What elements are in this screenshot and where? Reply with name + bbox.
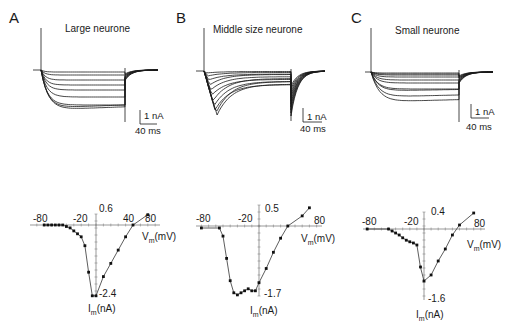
- data-point: [222, 235, 225, 238]
- panel-b-letter: B: [176, 10, 186, 25]
- data-point: [65, 225, 68, 228]
- data-point: [50, 224, 53, 227]
- data-point: [472, 212, 475, 215]
- panel-b-scale-current: 1 nA: [307, 112, 327, 122]
- data-point: [124, 235, 127, 238]
- data-point: [87, 271, 90, 274]
- data-point: [76, 232, 79, 235]
- data-point: [401, 236, 404, 239]
- data-point: [451, 234, 454, 237]
- data-point: [229, 279, 232, 282]
- panel-a-letter: A: [9, 10, 19, 25]
- iv-a-ylabel: Im(nA): [88, 304, 116, 316]
- data-point: [419, 266, 422, 269]
- data-point: [47, 224, 50, 227]
- data-point: [72, 230, 75, 233]
- panel-c-scale-current: 1 nA: [475, 107, 495, 117]
- data-point: [95, 294, 98, 297]
- iv-c-xlabel-unit: (mV): [480, 239, 502, 250]
- data-point: [43, 224, 46, 227]
- trace-group-c: [365, 28, 493, 122]
- data-point: [218, 227, 221, 230]
- iv-b-ylabel: Im(nA): [250, 306, 278, 318]
- iv-b-xlabel: Vm(mV): [301, 234, 335, 246]
- data-point: [394, 232, 397, 235]
- data-point: [437, 260, 440, 263]
- data-point: [444, 248, 447, 251]
- data-point: [225, 257, 228, 260]
- data-point: [200, 227, 203, 230]
- data-point: [308, 206, 311, 209]
- data-point: [286, 225, 289, 228]
- trace-group-a: [33, 28, 158, 122]
- trace-group-b: [196, 28, 325, 121]
- iv-a-xtick-40: 40: [123, 214, 134, 224]
- data-point: [69, 227, 72, 230]
- figure-canvas: [0, 0, 521, 333]
- data-point: [387, 228, 390, 231]
- data-point: [232, 291, 235, 294]
- iv-a-xtick-neg80: -80: [33, 214, 47, 224]
- iv-c-xtick-neg80: -80: [362, 217, 376, 227]
- data-point: [458, 224, 461, 227]
- data-point: [272, 251, 275, 254]
- data-point: [91, 294, 94, 297]
- data-point: [423, 280, 426, 283]
- data-point: [243, 289, 246, 292]
- iv-a-ytick-bottom: -2.4: [99, 289, 116, 299]
- iv-c-xlabel: Vm(mV): [467, 240, 501, 252]
- iv-c-xtick-neg20: -20: [404, 217, 418, 227]
- data-point: [430, 274, 433, 277]
- data-point: [102, 275, 105, 278]
- panel-a-scale-time: 40 ms: [135, 126, 161, 136]
- panel-c-title: Small neurone: [395, 26, 459, 36]
- iv-c-ytick-top: 0.4: [431, 207, 445, 217]
- data-point: [58, 224, 61, 227]
- iv-b-ylabel-unit: (nA): [259, 305, 278, 316]
- iv-plot-a: [30, 213, 160, 297]
- current-traces: [33, 28, 493, 124]
- iv-a-ylabel-unit: (nA): [97, 303, 116, 314]
- panel-c-letter: C: [351, 10, 362, 25]
- iv-b-xlabel-unit: (mV): [314, 233, 336, 244]
- iv-c-xlabel-main: V: [467, 239, 474, 250]
- data-point: [250, 289, 253, 292]
- data-point: [80, 235, 83, 238]
- data-point: [109, 262, 112, 265]
- panel-a-scale-current: 1 nA: [144, 111, 164, 121]
- panel-b-title: Middle size neurone: [213, 25, 303, 35]
- data-point: [405, 239, 408, 242]
- data-point: [254, 289, 257, 292]
- data-point: [412, 242, 415, 245]
- iv-c-ytick-bottom: -1.6: [428, 294, 445, 304]
- iv-a-xlabel-main: V: [142, 231, 149, 242]
- iv-curve: [367, 213, 474, 281]
- iv-b-xlabel-main: V: [301, 233, 308, 244]
- panel-a-title: Large neurone: [65, 24, 130, 34]
- panel-c-scale-time: 40 ms: [466, 122, 492, 132]
- data-point: [279, 237, 282, 240]
- iv-a-xlabel: Vm(mV): [142, 232, 176, 244]
- iv-c-ylabel: Im(nA): [416, 310, 444, 322]
- data-point: [117, 249, 120, 252]
- data-point: [236, 294, 239, 297]
- data-point: [84, 244, 87, 247]
- data-point: [408, 240, 411, 243]
- data-point: [61, 224, 64, 227]
- iv-c-ylabel-unit: (nA): [425, 309, 444, 320]
- iv-plot-c: [363, 212, 485, 300]
- iv-b-xtick-80: 80: [314, 216, 325, 226]
- data-point: [265, 267, 268, 270]
- data-point: [247, 287, 250, 290]
- iv-plot-b: [196, 205, 322, 296]
- data-point: [132, 224, 135, 227]
- data-point: [398, 234, 401, 237]
- iv-a-xlabel-unit: (mV): [155, 231, 177, 242]
- iv-a-xtick-neg20: -20: [73, 214, 87, 224]
- iv-a-xtick-80: 80: [145, 214, 156, 224]
- data-point: [366, 228, 369, 231]
- iv-b-ytick-top: 0.5: [265, 204, 279, 214]
- iv-b-xtick-neg20: -20: [238, 214, 252, 224]
- data-point: [240, 291, 243, 294]
- iv-b-xtick-neg80: -80: [196, 214, 210, 224]
